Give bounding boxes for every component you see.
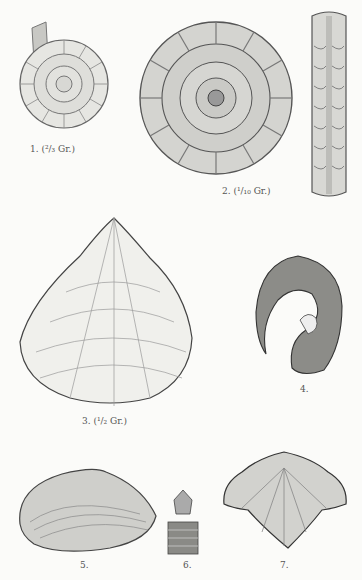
figure-1-label: 1. (²/₃ Gr.) [30,144,75,154]
figure-5-bivalve-small [10,464,160,554]
figure-2-label: 2. (¹/₁₀ Gr.) [222,186,271,196]
figure-6-crinoid [160,488,206,558]
figure-5-label: 5. [80,560,89,570]
figure-2-keel-view [306,6,352,202]
figure-1-ammonite-small [12,18,112,138]
figure-6-label: 6. [183,560,192,570]
figure-3-bivalve-large [10,212,200,408]
figure-7-brachiopod [218,448,352,552]
figure-3-label: 3. (¹/₂ Gr.) [82,416,127,426]
figure-7-label: 7. [280,560,289,570]
figure-4-label: 4. [300,384,309,394]
figure-4-coiled-shell [250,250,346,380]
figure-2-ammonite-large [136,8,296,178]
